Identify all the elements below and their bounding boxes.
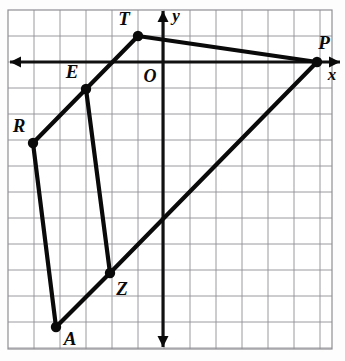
vertex-point-t: [133, 31, 143, 41]
point-label-t: T: [118, 8, 131, 29]
point-label-z: Z: [115, 278, 128, 299]
vertex-point-a: [51, 322, 61, 332]
coordinate-plane-svg: TPERZA x y O: [0, 0, 345, 361]
vertex-point-r: [28, 138, 38, 148]
vertex-point-z: [105, 268, 115, 278]
geometry-figure: TPERZA x y O: [0, 0, 345, 361]
x-axis-label: x: [327, 65, 337, 84]
origin-label: O: [144, 66, 157, 86]
vertex-point-e: [81, 84, 91, 94]
point-label-p: P: [317, 32, 330, 53]
y-axis-label: y: [170, 6, 180, 25]
point-label-a: A: [63, 328, 77, 349]
point-label-r: R: [12, 115, 26, 136]
vertex-point-p: [312, 57, 322, 67]
point-label-e: E: [65, 61, 79, 82]
